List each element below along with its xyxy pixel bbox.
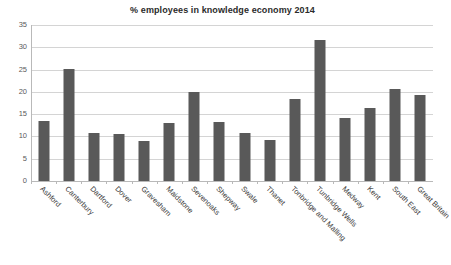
bar[interactable] xyxy=(164,123,175,181)
bar-slot xyxy=(56,25,81,181)
bar-slot xyxy=(383,25,408,181)
bar[interactable] xyxy=(113,134,124,181)
bar-slot xyxy=(257,25,282,181)
y-tick-label: 10 xyxy=(3,132,27,140)
bar-slot xyxy=(106,25,131,181)
bar-slot xyxy=(207,25,232,181)
bar[interactable] xyxy=(314,40,325,181)
bar[interactable] xyxy=(214,122,225,181)
y-tick-label: 0 xyxy=(3,177,27,185)
chart-title: % employees in knowledge economy 2014 xyxy=(0,5,445,15)
bar[interactable] xyxy=(289,99,300,181)
bar[interactable] xyxy=(189,92,200,181)
bar[interactable] xyxy=(63,69,74,181)
y-tick-label: 5 xyxy=(3,155,27,163)
plot-area xyxy=(31,25,433,181)
bar-slot xyxy=(333,25,358,181)
bar[interactable] xyxy=(38,121,49,181)
x-tick-label: Thanet xyxy=(265,185,287,207)
bar[interactable] xyxy=(365,108,376,181)
bar[interactable] xyxy=(239,133,250,181)
y-tick-label: 20 xyxy=(3,88,27,96)
x-tick-label: Swale xyxy=(239,185,259,205)
bar-slot xyxy=(358,25,383,181)
bar[interactable] xyxy=(415,95,426,181)
bar-slot xyxy=(81,25,106,181)
bar-slot xyxy=(408,25,433,181)
bar-slot xyxy=(182,25,207,181)
y-tick-label: 30 xyxy=(3,43,27,51)
x-tick-label: Dover xyxy=(114,185,134,205)
bar-slot xyxy=(31,25,56,181)
y-tick-label: 15 xyxy=(3,110,27,118)
bar[interactable] xyxy=(139,141,150,181)
y-tick-label: 35 xyxy=(3,21,27,29)
x-axis-tick-labels: AshfordCanterburyDartfordDoverGraveshamM… xyxy=(31,183,433,263)
bar[interactable] xyxy=(390,89,401,181)
bar-slot xyxy=(132,25,157,181)
bar-slot xyxy=(232,25,257,181)
bar-slot xyxy=(282,25,307,181)
bar[interactable] xyxy=(88,133,99,181)
x-tick-label: Ashford xyxy=(38,185,62,209)
y-tick-label: 25 xyxy=(3,66,27,74)
x-tick-label: Great Britain xyxy=(415,185,450,220)
bar-slot xyxy=(157,25,182,181)
y-axis-tick-labels: 05101520253035 xyxy=(0,25,27,181)
bars-layer xyxy=(31,25,433,181)
bar-slot xyxy=(307,25,332,181)
x-tick-label: Kent xyxy=(365,185,382,202)
bar[interactable] xyxy=(340,118,351,181)
bar[interactable] xyxy=(264,140,275,181)
